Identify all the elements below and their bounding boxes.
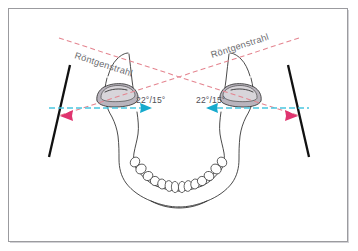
beam-arrowhead-left: [60, 110, 73, 121]
beam-label-right: Röntgenstrahl: [210, 32, 271, 60]
film-line-right: [288, 65, 309, 157]
dental-arch: [128, 155, 228, 193]
tooth: [171, 181, 179, 192]
beam-arrowhead-right: [285, 110, 298, 121]
angle-label-left: 22°/15°: [136, 95, 165, 105]
beam-label-left: Röntgenstrahl: [73, 50, 134, 78]
condyle-left: [97, 84, 138, 107]
figure-root: Röntgenstrahl Röntgenstrahl 22°/15° 22°/…: [0, 0, 358, 251]
mandible-right-coronoid: [230, 53, 250, 76]
condyle-right: [220, 84, 261, 107]
film-line-left: [49, 65, 70, 157]
mandible-projection-diagram: Röntgenstrahl Röntgenstrahl 22°/15° 22°/…: [0, 0, 358, 251]
angle-label-right: 22°/15°: [196, 95, 225, 105]
